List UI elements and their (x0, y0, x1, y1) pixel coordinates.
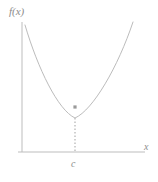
plot-canvas (0, 0, 158, 182)
function-graph-figure: f(x) x c (0, 0, 158, 182)
y-axis-label: f(x) (9, 6, 24, 17)
minimum-point-marker (73, 105, 76, 108)
x-axis-label: x (144, 142, 148, 152)
critical-point-label: c (71, 159, 75, 169)
function-curve (25, 22, 133, 118)
